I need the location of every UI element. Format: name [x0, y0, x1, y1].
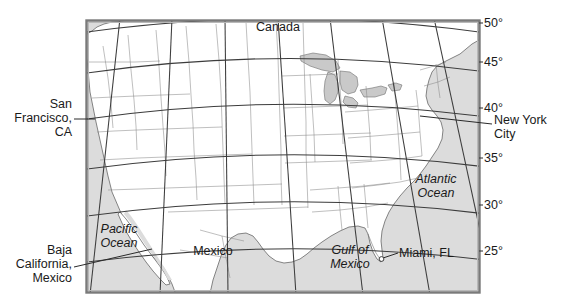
- latitude-label-45: 45°: [484, 55, 503, 69]
- label-atlantic-ocean: Atlantic Ocean: [403, 172, 469, 200]
- callout-san-francisco: San Francisco, CA: [0, 97, 72, 139]
- callout-miami-fl: Miami, FL: [399, 246, 469, 260]
- map-canvas: [0, 0, 563, 307]
- label-pacific-ocean: Pacific Ocean: [88, 222, 150, 250]
- latitude-label-25: 25°: [484, 244, 503, 258]
- label-gulf-of-mexico: Gulf of Mexico: [316, 243, 384, 271]
- map-figure: 50° 45° 40° 35° 30° 25° Canada Mexico Pa…: [0, 0, 563, 307]
- callout-new-york-city: New York City: [494, 113, 563, 141]
- latitude-label-35: 35°: [484, 151, 503, 165]
- latitude-label-50: 50°: [484, 16, 503, 30]
- callout-baja-california: Baja California, Mexico: [0, 243, 72, 285]
- label-canada: Canada: [228, 20, 328, 34]
- latitude-label-30: 30°: [484, 198, 503, 212]
- label-mexico: Mexico: [173, 244, 253, 258]
